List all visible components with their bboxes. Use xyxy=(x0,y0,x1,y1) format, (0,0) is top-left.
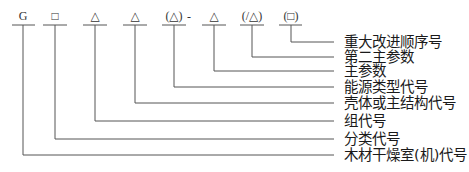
code-label-group: △ xyxy=(80,9,110,23)
desc-main-param: 主参数 xyxy=(344,63,386,79)
code-label-category: □ xyxy=(40,9,70,23)
separator-dash: - xyxy=(187,10,191,25)
code-label-energy: (△) xyxy=(159,9,189,23)
code-label-revision: (□) xyxy=(276,9,306,23)
desc-energy: 能源类型代号 xyxy=(344,79,428,95)
desc-category: 分类代号 xyxy=(344,131,400,147)
desc-shell: 壳体或主结构代号 xyxy=(344,95,456,111)
code-label-main-param: △ xyxy=(199,9,229,23)
desc-revision: 重大改进顺序号 xyxy=(344,34,442,50)
desc-dryer: 木材干燥室(机)代号 xyxy=(344,147,467,163)
code-structure-diagram: G □ △ △ (△) - △ (/△) (□) 重大改进顺序号 第二主参数 主… xyxy=(0,0,469,172)
desc-group: 组代号 xyxy=(344,113,386,129)
code-label-second-param: (/△) xyxy=(237,9,267,23)
code-label-dryer: G xyxy=(8,9,38,23)
code-label-shell: △ xyxy=(120,9,150,23)
